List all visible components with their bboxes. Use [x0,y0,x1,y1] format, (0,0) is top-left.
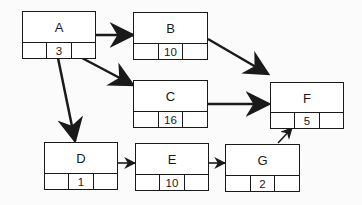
node-b-cell-left [134,44,158,59]
node-a[interactable]: A 3 [22,11,96,59]
node-g-cell-right [275,176,299,191]
node-g-label: G [226,145,299,176]
node-a-duration: 3 [46,43,71,58]
node-g-cell-left [226,176,250,191]
node-b-label: B [134,13,207,44]
node-d[interactable]: D 1 [44,142,118,190]
node-e-duration-row: 10 [136,174,208,190]
node-f-duration: 5 [294,113,319,128]
node-e-duration: 10 [159,175,184,190]
edge-a-c [82,58,133,85]
node-a-cell-right [72,43,95,58]
node-c-duration-row: 16 [134,111,207,127]
node-c[interactable]: C 16 [133,80,208,128]
node-d-cell-right [94,174,117,189]
node-f-cell-left [271,113,294,128]
edge-g-f [278,128,292,143]
node-f-duration-row: 5 [271,112,343,128]
node-a-cell-left [23,43,46,58]
node-f[interactable]: F 5 [270,82,344,129]
node-g-duration-row: 2 [226,175,299,191]
node-d-duration: 1 [68,174,93,189]
node-c-duration: 16 [158,112,184,127]
node-b-duration: 10 [158,44,184,59]
node-b-duration-row: 10 [134,43,207,59]
node-d-cell-left [45,174,68,189]
node-f-cell-right [320,113,343,128]
node-a-duration-row: 3 [23,42,95,58]
node-c-cell-left [134,112,158,127]
edge-a-d [58,58,75,141]
node-e-cell-right [185,175,208,190]
node-e[interactable]: E 10 [135,143,209,191]
node-c-label: C [134,81,207,112]
node-d-duration-row: 1 [45,173,117,189]
node-f-label: F [271,83,343,114]
node-a-label: A [23,12,95,43]
node-c-cell-right [183,112,207,127]
node-g-duration: 2 [250,176,276,191]
node-g[interactable]: G 2 [225,144,300,192]
node-b-cell-right [183,44,207,59]
edge-b-f [208,39,268,74]
node-e-label: E [136,144,208,175]
node-e-cell-left [136,175,159,190]
node-d-label: D [45,143,117,174]
node-b[interactable]: B 10 [133,12,208,60]
